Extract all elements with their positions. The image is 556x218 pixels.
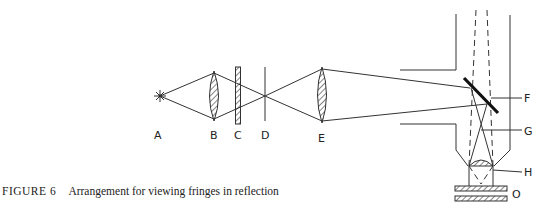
label-f: F: [524, 92, 530, 105]
mirror-f-icon: [464, 78, 498, 113]
figure-number: FIGURE 6: [2, 185, 56, 197]
label-a: A: [154, 129, 162, 142]
microscope-tube: [400, 14, 510, 166]
rays-source-to-lens: [160, 73, 214, 119]
label-e: E: [318, 132, 325, 145]
rays-stop-to-lens-e: [265, 69, 322, 121]
rays-lens-e-to-mirror: [322, 69, 487, 121]
lens-b-icon: [210, 71, 219, 121]
filter-plate-c-icon: [236, 67, 241, 124]
label-h: H: [524, 166, 532, 179]
label-c: C: [234, 129, 242, 142]
lens-e-icon: [318, 67, 327, 123]
label-b: B: [210, 129, 218, 142]
label-o: O: [512, 188, 521, 201]
figure-caption: FIGURE 6 Arrangement for viewing fringes…: [2, 185, 279, 197]
label-g: G: [524, 125, 533, 138]
reflected-rays: [469, 88, 493, 166]
leader-lines: [481, 98, 522, 172]
label-d: D: [261, 129, 269, 142]
figure-caption-text: Arrangement for viewing fringes in refle…: [68, 185, 278, 197]
object-plates-o-icon: [455, 186, 507, 201]
objective-h-icon: [469, 160, 493, 186]
